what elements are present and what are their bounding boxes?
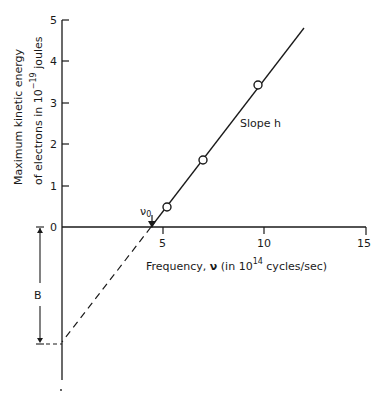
svg-text:10: 10 — [257, 237, 271, 250]
y-tick-labels: 5 4 3 2 1 0 — [50, 14, 57, 234]
work-function-bracket — [36, 227, 62, 344]
svg-text:2: 2 — [50, 138, 57, 151]
svg-text:5: 5 — [159, 237, 166, 250]
axis-end-dot — [60, 389, 62, 391]
slope-label: Slope h — [240, 117, 281, 130]
svg-text:5: 5 — [50, 14, 57, 27]
y-axis-title: Maximum kinetic energy — [12, 48, 25, 185]
svg-text:Maximum kinetic energy: Maximum kinetic energy — [12, 48, 25, 185]
bracket-up-arrow-icon — [37, 228, 43, 233]
bracket-down-arrow-icon — [37, 338, 43, 343]
photoelectric-chart: 5 4 3 2 1 0 5 10 15 Slope h ν0 B — [0, 0, 380, 399]
svg-text:0: 0 — [50, 221, 57, 234]
fit-line-extrapolation — [62, 227, 151, 342]
y-axis-title-line2: of electrons in 10−19 joules — [29, 36, 45, 185]
fit-line — [151, 28, 304, 227]
x-axis-title: Frequency, ν (in 1014 cycles/sec) — [146, 257, 327, 273]
work-function-label: B — [34, 289, 42, 302]
x-ticks — [163, 227, 264, 234]
x-tick-labels: 5 10 15 — [159, 237, 371, 250]
y-ticks — [62, 20, 69, 186]
svg-text:1: 1 — [50, 180, 57, 193]
threshold-frequency-label: ν0 — [140, 205, 151, 219]
svg-text:4: 4 — [50, 55, 57, 68]
svg-text:of electrons in 10−19 joules: of electrons in 10−19 joules — [29, 36, 45, 185]
data-point — [254, 81, 262, 89]
svg-text:15: 15 — [357, 237, 371, 250]
svg-text:3: 3 — [50, 97, 57, 110]
data-point — [199, 156, 207, 164]
data-point — [163, 203, 171, 211]
